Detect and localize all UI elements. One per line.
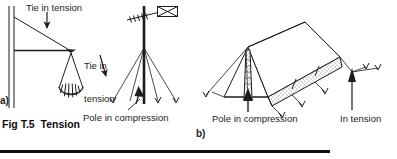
panel-marker-b: b) <box>196 128 205 139</box>
label-tie-in-tension-a: Tie in tension <box>26 2 82 13</box>
box-antenna <box>158 7 178 17</box>
tent-canvas <box>224 22 340 97</box>
panel-marker-a: a) <box>0 95 9 106</box>
label-in-tension: In tension <box>340 113 381 124</box>
hanging-load-sack <box>59 53 84 97</box>
wall-post <box>9 6 14 108</box>
panel-b-artwork <box>203 22 381 118</box>
tent-guys-right <box>340 57 381 72</box>
bottom-rule <box>0 150 330 153</box>
label-pole-in-compression-tent: Pole in compression <box>212 113 298 124</box>
label-tie-in-tension-mast-line1: Tie in <box>84 60 115 71</box>
figure-caption: Fig T.5 Tension <box>2 118 80 130</box>
figure-tension: Tie in tension Tie in tension Pole in co… <box>0 0 397 159</box>
tie-member <box>14 17 71 51</box>
panel-a-artwork <box>9 6 83 108</box>
label-tie-in-tension-mast-line2: tension <box>84 93 115 104</box>
label-pole-in-compression-mast: Pole in compression <box>83 112 169 123</box>
in-tension-arrow <box>348 68 356 110</box>
